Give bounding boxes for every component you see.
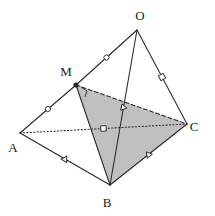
vertex-label-a: A xyxy=(8,140,18,155)
square-tick-glyph xyxy=(158,73,165,80)
figure-canvas: OMABC xyxy=(0,0,215,216)
square-tick-glyph xyxy=(101,126,107,132)
vertex-label-b: B xyxy=(103,195,112,210)
vertex-label-c: C xyxy=(190,119,199,134)
vertex-label-m: M xyxy=(60,64,72,79)
tick-square-oc xyxy=(158,73,165,80)
vertex-dots-layer xyxy=(73,82,78,87)
tick-square-ac xyxy=(101,126,107,132)
vertex-dot-m xyxy=(73,82,78,87)
geometry-figure: OMABC xyxy=(0,0,215,216)
vertex-label-o: O xyxy=(135,8,144,23)
